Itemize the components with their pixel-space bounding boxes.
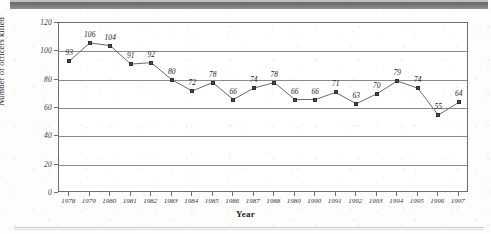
x-axis-tick-mark [376,192,377,196]
data-point-marker [190,89,194,93]
y-axis-tick-label: 40 [44,131,52,140]
x-axis-tick-label: 1993 [369,197,383,205]
x-axis-tick-label: 1995 [410,197,424,205]
x-axis-tick-mark [273,192,274,196]
y-axis-tick-mark [54,79,58,80]
y-axis-tick-mark [54,192,58,193]
data-point-label: 63 [352,91,360,100]
y-axis-tick-label: 100 [40,46,52,55]
x-axis-tick-label: 1996 [430,197,444,205]
y-axis-tick-mark [54,22,58,23]
data-point-marker [272,81,276,85]
x-axis-tick-label: 1986 [225,197,239,205]
x-axis-tick-mark [335,192,336,196]
x-axis-tick-mark [253,192,254,196]
x-axis-tick-mark [171,192,172,196]
x-axis-tick-label: 1991 [328,197,342,205]
data-point-label: 93 [65,48,73,57]
data-point-marker [129,62,133,66]
x-axis-tick-label: 1994 [389,197,403,205]
data-point-marker [395,79,399,83]
data-point-marker [231,98,235,102]
data-point-label: 78 [209,70,217,79]
x-axis-title: Year [0,209,491,219]
data-point-marker [293,98,297,102]
x-axis-tick-label: 1988 [266,197,280,205]
page-divider-rule [14,227,484,228]
x-axis-tick-label: 1989 [287,197,301,205]
data-point-label: 106 [84,30,96,39]
data-point-marker [457,100,461,104]
x-axis-tick-mark [396,192,397,196]
y-axis-tick-label: 0 [48,188,52,197]
data-point-label: 71 [332,79,340,88]
data-point-marker [211,81,215,85]
data-point-label: 79 [393,68,401,77]
x-axis-tick-mark [130,192,131,196]
y-axis-tick-label: 20 [44,159,52,168]
data-point-label: 74 [414,75,422,84]
data-point-label: 64 [455,89,463,98]
data-point-marker [416,86,420,90]
x-axis-tick-mark [232,192,233,196]
data-point-marker [67,59,71,63]
x-axis-tick-mark [191,192,192,196]
data-point-marker [88,41,92,45]
x-axis-tick-mark [458,192,459,196]
y-axis-tick-mark [54,50,58,51]
data-point-label: 66 [311,87,319,96]
data-point-label: 78 [270,70,278,79]
x-axis-tick-label: 1997 [451,197,465,205]
plot-area: 9310610491928072786674786666716370797455… [58,22,468,192]
x-axis-tick-label: 1985 [205,197,219,205]
line-chart: Number of officers killed 93106104919280… [0,0,491,234]
x-axis-tick-label: 1983 [164,197,178,205]
x-axis-tick-label: 1982 [143,197,157,205]
data-point-label: 74 [250,75,258,84]
data-point-marker [108,44,112,48]
data-point-label: 66 [291,87,299,96]
data-point-marker [375,92,379,96]
data-point-label: 70 [373,81,381,90]
x-axis-tick-label: 1987 [246,197,260,205]
x-axis-tick-label: 1978 [61,197,75,205]
x-axis-tick-mark [109,192,110,196]
data-point-marker [252,86,256,90]
x-axis-tick-label: 1990 [307,197,321,205]
data-point-marker [149,61,153,65]
x-axis-tick-mark [150,192,151,196]
x-axis-tick-label: 1992 [348,197,362,205]
data-point-label: 91 [127,51,135,60]
y-axis-tick-label: 60 [44,103,52,112]
data-point-label: 72 [188,78,196,87]
x-axis-tick-mark [68,192,69,196]
data-point-marker [334,90,338,94]
data-point-marker [170,78,174,82]
data-point-marker [436,113,440,117]
x-axis-tick-mark [355,192,356,196]
data-point-label: 92 [147,50,155,59]
x-axis-tick-mark [89,192,90,196]
data-point-label: 80 [168,67,176,76]
data-point-label: 66 [229,87,237,96]
y-axis-tick-mark [54,107,58,108]
data-point-label: 55 [434,102,442,111]
y-axis-title: Number of officers killed [0,17,6,106]
x-axis-tick-label: 1984 [184,197,198,205]
x-axis-tick-label: 1981 [123,197,137,205]
page-divider-rule-shadow [14,229,484,230]
y-axis-tick-mark [54,135,58,136]
y-axis-tick-label: 80 [44,74,52,83]
x-axis-tick-mark [314,192,315,196]
y-axis-tick-mark [54,164,58,165]
data-point-marker [354,102,358,106]
x-axis-tick-label: 1979 [82,197,96,205]
y-axis-tick-label: 120 [40,18,52,27]
x-axis-tick-mark [294,192,295,196]
x-axis-tick-mark [417,192,418,196]
series-line-officers-killed [59,23,469,193]
data-point-marker [313,98,317,102]
x-axis-tick-label: 1980 [102,197,116,205]
x-axis-tick-mark [437,192,438,196]
x-axis-tick-mark [212,192,213,196]
